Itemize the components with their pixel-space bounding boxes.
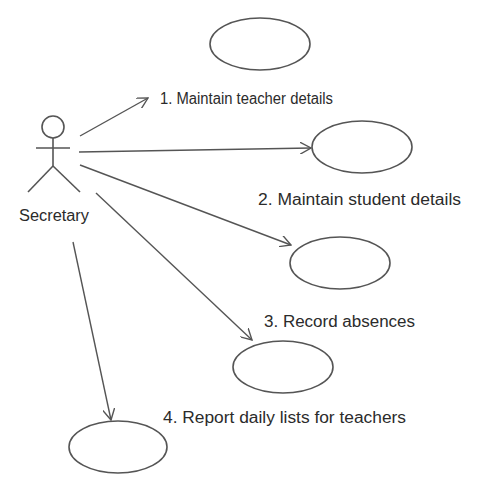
use-case-diagram: Secretary 1. Maintain teacher details 2.…	[0, 0, 478, 489]
use-case-label-2: 2. Maintain student details	[258, 191, 461, 208]
use-case-ellipse-5	[69, 421, 167, 473]
association-arrow-2	[79, 148, 311, 152]
association-arrow-5	[73, 242, 111, 420]
use-case-ellipse-3	[290, 237, 390, 289]
actor-head	[42, 116, 64, 138]
association-arrow-1	[80, 98, 148, 136]
actor-label: Secretary	[19, 207, 89, 224]
actor-secretary: Secretary	[19, 116, 89, 224]
actor-left-leg	[28, 166, 53, 192]
actor-right-leg	[53, 166, 80, 192]
use-case-ellipse-2	[312, 121, 412, 173]
association-arrow-4	[96, 193, 252, 340]
use-case-ellipse-1	[210, 18, 310, 70]
use-case-label-1: 1. Maintain teacher details	[160, 90, 333, 107]
use-case-ellipse-4	[233, 341, 333, 393]
use-case-label-4: 4. Report daily lists for teachers	[163, 409, 406, 426]
use-case-label-3: 3. Record absences	[264, 313, 415, 330]
